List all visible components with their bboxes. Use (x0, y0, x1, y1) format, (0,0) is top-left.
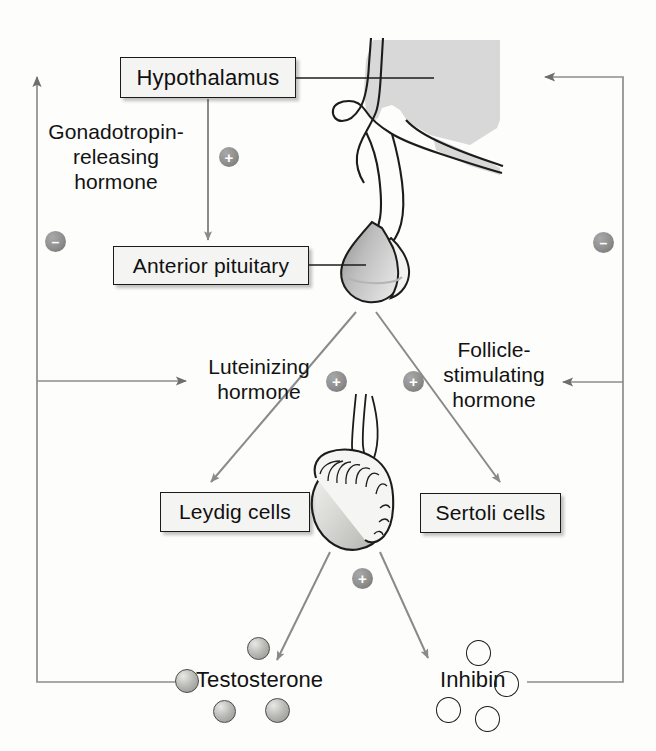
testosterone-dot (265, 698, 290, 723)
plus-sign-gnrh-glyph: + (225, 150, 234, 165)
pituitary-gland-illustration (309, 222, 409, 302)
arrow-inhibin (380, 552, 428, 658)
inhibin-dot (436, 697, 461, 723)
label-luteinizing-hormone: Luteinizing hormone (188, 355, 330, 405)
minus-sign-right-glyph: – (600, 236, 608, 250)
hypothalamus-anatomy-illustration (296, 38, 503, 250)
node-leydig-cells-label: Leydig cells (179, 500, 291, 524)
label-gonadotropin-releasing-hormone: Gonadotropin- releasing hormone (36, 120, 196, 194)
plus-sign-fsh-glyph: + (409, 374, 418, 389)
minus-sign-left-glyph: – (52, 235, 60, 249)
node-hypothalamus[interactable]: Hypothalamus (120, 57, 296, 98)
inhibin-dot (494, 671, 519, 697)
plus-sign-testis-glyph: + (358, 571, 367, 586)
inhibin-dot (475, 706, 500, 732)
label-inhibin: Inhibin (440, 667, 540, 693)
label-testosterone: Testosterone (196, 667, 360, 693)
diagram-canvas: Hypothalamus Anterior pituitary Leydig c… (0, 0, 656, 751)
minus-sign-right: – (593, 232, 614, 253)
node-anterior-pituitary-label: Anterior pituitary (133, 254, 290, 278)
label-follicle-stimulating-hormone: Follicle- stimulating hormone (424, 338, 564, 412)
node-sertoli-cells-label: Sertoli cells (436, 501, 546, 525)
node-leydig-cells[interactable]: Leydig cells (160, 492, 310, 532)
testosterone-dot (175, 669, 199, 693)
plus-sign-gnrh: + (219, 147, 239, 167)
minus-sign-left: – (45, 231, 66, 252)
plus-sign-lh-glyph: + (332, 374, 341, 389)
node-sertoli-cells[interactable]: Sertoli cells (420, 493, 561, 533)
testosterone-dot (213, 700, 236, 723)
inhibin-dot (466, 640, 491, 666)
testosterone-dot (247, 637, 270, 660)
testis-illustration (305, 394, 397, 556)
plus-sign-lh: + (326, 371, 347, 392)
node-hypothalamus-label: Hypothalamus (136, 65, 279, 91)
arrow-testosterone (277, 552, 330, 660)
node-anterior-pituitary[interactable]: Anterior pituitary (113, 246, 309, 285)
plus-sign-testis: + (352, 568, 373, 589)
plus-sign-fsh: + (403, 371, 424, 392)
